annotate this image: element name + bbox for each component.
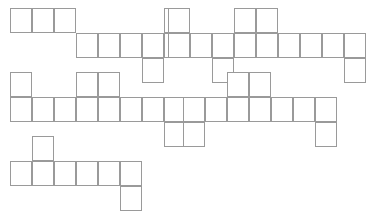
net-cell: [300, 33, 322, 58]
net-cell: [249, 72, 271, 97]
net-cell: [344, 58, 366, 83]
net-cell: [54, 97, 76, 122]
net-cell: [32, 161, 54, 186]
net-cell: [54, 161, 76, 186]
net-cell: [76, 33, 98, 58]
net-cell: [168, 33, 190, 58]
net-cell: [120, 33, 142, 58]
net-cell: [344, 33, 366, 58]
net-cell: [234, 33, 256, 58]
net-cell: [10, 161, 32, 186]
net-cell: [10, 97, 32, 122]
net-cell: [32, 8, 54, 33]
net-cell: [142, 97, 164, 122]
net-cell: [212, 33, 234, 58]
net-cell: [120, 97, 142, 122]
net-cell: [32, 136, 54, 161]
net-cell: [249, 97, 271, 122]
net-cell: [227, 72, 249, 97]
net-cell: [76, 97, 98, 122]
net-cell: [54, 8, 76, 33]
net-cell: [98, 97, 120, 122]
net-cell: [98, 72, 120, 97]
net-cell: [76, 161, 98, 186]
net-cell: [234, 8, 256, 33]
net-cell: [293, 97, 315, 122]
net-cell: [120, 186, 142, 211]
net-cell: [168, 8, 190, 33]
net-cell: [278, 33, 300, 58]
net-cell: [120, 161, 142, 186]
net-cell: [205, 97, 227, 122]
net-cell: [322, 33, 344, 58]
net-cell: [183, 97, 205, 122]
net-cell: [190, 33, 212, 58]
net-cell: [315, 97, 337, 122]
net-cell: [227, 97, 249, 122]
net-cell: [32, 97, 54, 122]
net-cell: [271, 97, 293, 122]
net-cell: [183, 122, 205, 147]
net-cell: [10, 8, 32, 33]
net-cell: [142, 33, 164, 58]
net-cell: [76, 72, 98, 97]
net-cell: [315, 122, 337, 147]
net-cell: [10, 72, 32, 97]
net-cell: [98, 161, 120, 186]
net-cell: [142, 58, 164, 83]
net-cell: [256, 8, 278, 33]
net-cell: [256, 33, 278, 58]
net-cell: [98, 33, 120, 58]
